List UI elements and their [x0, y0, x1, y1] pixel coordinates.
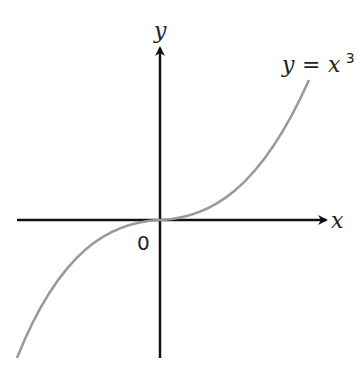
cubic-graph: y x 0 y = x 3	[0, 0, 359, 374]
x-axis-label: x	[331, 208, 344, 233]
curve-label: y = x 3	[281, 50, 355, 77]
y-axis-label: y	[153, 18, 167, 43]
origin-label: 0	[137, 231, 150, 255]
